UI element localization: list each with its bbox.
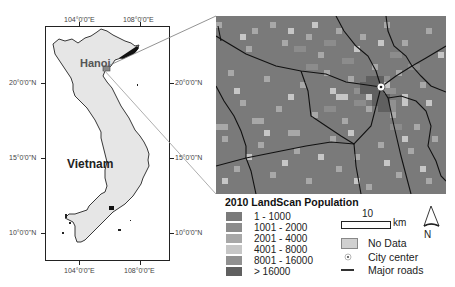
scale-bar bbox=[341, 221, 391, 229]
major-roads-label: Major roads bbox=[368, 264, 423, 276]
no-data-swatch bbox=[341, 238, 358, 249]
legend-item: 2001 - 4000 bbox=[226, 233, 307, 243]
legend-swatch bbox=[226, 234, 242, 243]
legend-label: 1001 - 2000 bbox=[254, 222, 307, 233]
legend-item: 1001 - 2000 bbox=[226, 222, 307, 232]
legend-label: > 16000 bbox=[254, 266, 290, 277]
legend-swatch bbox=[226, 245, 242, 254]
legend-label: 2001 - 4000 bbox=[254, 233, 307, 244]
legend-item: > 16000 bbox=[226, 266, 290, 276]
legend-swatch bbox=[226, 223, 242, 232]
city-center-icon bbox=[377, 83, 385, 91]
scale-unit: km bbox=[393, 217, 406, 228]
legend-swatch bbox=[226, 256, 242, 265]
legend-major-roads: Major roads bbox=[341, 264, 423, 276]
legend-swatch bbox=[226, 212, 242, 221]
scale-value: 10 bbox=[362, 208, 373, 219]
city-center-label: City center bbox=[368, 251, 418, 263]
city-center-legend-icon bbox=[341, 252, 356, 262]
legend-item: 1 - 1000 bbox=[226, 211, 291, 221]
legend-item: 4001 - 8000 bbox=[226, 244, 307, 254]
no-data-label: No Data bbox=[368, 237, 407, 249]
legend-title: 2010 LandScan Population bbox=[225, 196, 359, 208]
road-line-icon bbox=[341, 269, 354, 271]
legend-label: 4001 - 8000 bbox=[254, 244, 307, 255]
north-label: N bbox=[424, 229, 431, 240]
legend-label: 8001 - 16000 bbox=[254, 255, 313, 266]
population-grid bbox=[216, 16, 446, 194]
legend-label: 1 - 1000 bbox=[254, 211, 291, 222]
detail-population-map bbox=[216, 16, 446, 194]
legend-city-center: City center bbox=[341, 251, 418, 263]
legend-item: 8001 - 16000 bbox=[226, 255, 313, 265]
legend-swatch bbox=[226, 267, 242, 276]
legend-no-data: No Data bbox=[341, 237, 407, 249]
